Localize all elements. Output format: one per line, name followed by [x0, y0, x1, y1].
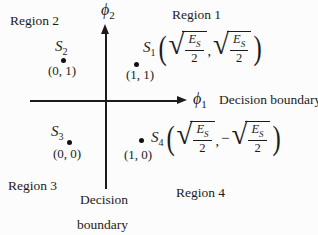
phi2-axis-line — [105, 31, 107, 189]
open-paren: ( — [166, 123, 174, 153]
phi2-axis-arrowhead-icon — [101, 24, 109, 34]
point-s4-expression: S4 ( √ ES 2 , − √ ES 2 ) — [151, 121, 282, 155]
comma: , — [208, 44, 212, 60]
s2-subscript: 2 — [63, 46, 68, 57]
decision-boundary-bottom-line2: boundary — [77, 217, 128, 233]
region-3-label: Region 3 — [8, 178, 57, 194]
phi2-subscript: 2 — [109, 9, 115, 21]
phi1-axis-label: ϕ1 — [193, 90, 207, 111]
comma: , — [216, 134, 220, 150]
sqrt-es-over-2: √ ES 2 — [169, 31, 207, 65]
open-paren: ( — [158, 33, 166, 63]
point-s2-label: S2 — [55, 38, 68, 58]
s2-symbol: S — [55, 38, 63, 54]
point-s4-bits: (1, 0) — [124, 147, 152, 163]
s1-symbol: S1 — [143, 39, 156, 58]
energy-symbol: ES — [193, 123, 211, 141]
phi2-axis-label: ϕ2 — [101, 1, 115, 22]
denominator: 2 — [191, 51, 197, 65]
s3-symbol: S — [51, 123, 59, 139]
sqrt-es-over-2: √ ES 2 — [177, 121, 215, 155]
point-s3-label: S3 — [51, 123, 64, 143]
point-s2-bits: (0, 1) — [48, 63, 76, 79]
point-s1-expression: S1 ( √ ES 2 , √ ES 2 ) — [143, 31, 263, 65]
s3-subscript: 3 — [59, 131, 64, 142]
denominator: 2 — [236, 51, 242, 65]
region-1-label: Region 1 — [172, 7, 221, 23]
point-s4-dot — [139, 138, 144, 143]
point-s3-dot — [67, 140, 72, 145]
s4-symbol: S4 — [151, 129, 164, 148]
close-paren: ) — [272, 123, 280, 153]
region-4-label: Region 4 — [176, 185, 225, 201]
phi1-axis-arrowhead-icon — [177, 96, 187, 104]
phi1-subscript: 1 — [201, 98, 207, 110]
sqrt-es-over-2: √ ES 2 — [232, 121, 270, 155]
minus-sign: − — [221, 130, 229, 147]
close-paren: ) — [254, 33, 262, 63]
energy-symbol: ES — [185, 33, 203, 51]
energy-symbol: ES — [248, 123, 266, 141]
phi1-axis-line — [30, 100, 179, 102]
decision-boundary-right-label: Decision boundary — [219, 92, 318, 108]
energy-symbol: ES — [230, 33, 248, 51]
region-2-label: Region 2 — [10, 13, 59, 29]
point-s3-bits: (0, 0) — [53, 146, 81, 162]
denominator: 2 — [254, 141, 260, 155]
denominator: 2 — [199, 141, 205, 155]
signal-space-diagram: ϕ2 ϕ1 Region 1 Region 2 Region 3 Region … — [0, 0, 318, 235]
decision-boundary-bottom-line1: Decision — [80, 192, 128, 208]
sqrt-es-over-2: √ ES 2 — [213, 31, 251, 65]
point-s1-bits: (1, 1) — [126, 67, 154, 83]
